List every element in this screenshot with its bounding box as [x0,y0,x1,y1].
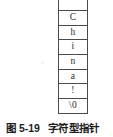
memory-cell-column: C h i n a ! \0 [58,0,88,114]
memory-cell-char-4: a [59,70,87,85]
memory-cell-char-1: h [59,26,87,41]
scan-artifact-speck [41,61,44,64]
figure-title-text: 字符型指针 [48,120,100,135]
memory-cell-null-terminator: \0 [59,99,87,114]
figure-number-label: 图 5-19 [6,120,40,135]
figure-character-pointer: C h i n a ! \0 图 5-19 字符型指针 [0,0,113,137]
memory-cell-empty [59,0,87,11]
memory-cell-char-0: C [59,11,87,26]
memory-cell-char-2: i [59,40,87,55]
figure-caption: 图 5-19 字符型指针 [6,119,110,135]
memory-cell-char-5: ! [59,84,87,99]
memory-cell-char-3: n [59,55,87,70]
